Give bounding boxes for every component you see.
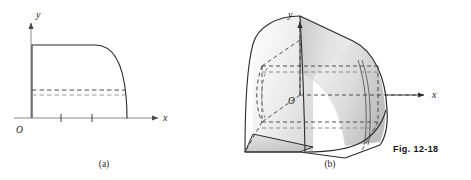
- figure-container: y x O (a): [0, 0, 471, 180]
- panel-a-caption: (a): [99, 159, 110, 170]
- panel-b-caption: (b): [324, 159, 335, 170]
- panel-a-group: y x O (a): [14, 9, 168, 170]
- panel-b-x-axis-label: x: [431, 89, 437, 100]
- panel-b-origin-label: O: [288, 96, 295, 106]
- panel-b-y-axis-label: y: [287, 9, 293, 20]
- panel-a-boundary-curve: [32, 45, 127, 118]
- figure-12-18: y x O (a): [0, 0, 471, 180]
- figure-number-label: Fig. 12-18: [393, 144, 439, 154]
- panel-a-origin-label: O: [16, 125, 23, 135]
- panel-a-x-axis-label: x: [162, 112, 168, 123]
- panel-a-y-axis-label: y: [35, 9, 41, 20]
